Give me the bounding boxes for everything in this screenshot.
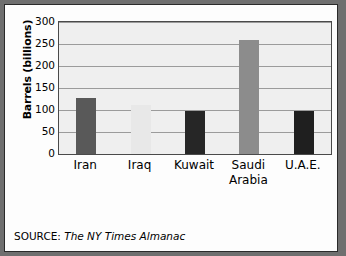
- bar-chart: Barrels (billions) 050100150200250300 Ir…: [5, 5, 337, 210]
- bar-slot: [113, 22, 167, 154]
- x-label-line: Kuwait: [174, 158, 214, 172]
- plot-area: [58, 21, 332, 155]
- y-tick-label: 300: [27, 15, 55, 27]
- bars-layer: [59, 22, 331, 154]
- bar: [131, 105, 151, 154]
- bar: [185, 111, 205, 154]
- x-label-line: Iraq: [128, 158, 151, 172]
- y-tick-label: 100: [27, 103, 55, 115]
- y-tick-label: 0: [27, 147, 55, 159]
- y-tick-label: 50: [27, 125, 55, 137]
- x-label-line: Iran: [73, 158, 96, 172]
- x-axis-category-labels: IranIraqKuwaitSaudiArabiaU.A.E.: [58, 158, 332, 204]
- x-label-line: U.A.E.: [285, 158, 321, 172]
- x-category-label: Iraq: [112, 158, 166, 173]
- x-label-line: Arabia: [221, 173, 275, 188]
- source-value: The NY Times Almanac: [64, 230, 185, 242]
- x-category-label: Kuwait: [167, 158, 221, 173]
- bar: [239, 40, 259, 154]
- screenshot-root: Barrels (billions) 050100150200250300 Ir…: [0, 0, 346, 256]
- x-category-label: SaudiArabia: [221, 158, 275, 188]
- bar-slot: [222, 22, 276, 154]
- x-category-label: U.A.E.: [276, 158, 330, 173]
- x-label-line: Saudi: [232, 158, 266, 172]
- bar: [76, 98, 96, 154]
- bar-slot: [168, 22, 222, 154]
- source-label: SOURCE:: [14, 230, 61, 242]
- y-tick-label: 250: [27, 37, 55, 49]
- bar: [294, 111, 314, 154]
- source-note: SOURCE: The NY Times Almanac: [14, 230, 185, 242]
- x-category-label: Iran: [58, 158, 112, 173]
- y-axis-tick-labels: 050100150200250300: [27, 21, 55, 155]
- y-tick-label: 200: [27, 59, 55, 71]
- y-tick-label: 150: [27, 81, 55, 93]
- bar-slot: [277, 22, 331, 154]
- bar-slot: [59, 22, 113, 154]
- figure-card: Barrels (billions) 050100150200250300 Ir…: [4, 4, 338, 252]
